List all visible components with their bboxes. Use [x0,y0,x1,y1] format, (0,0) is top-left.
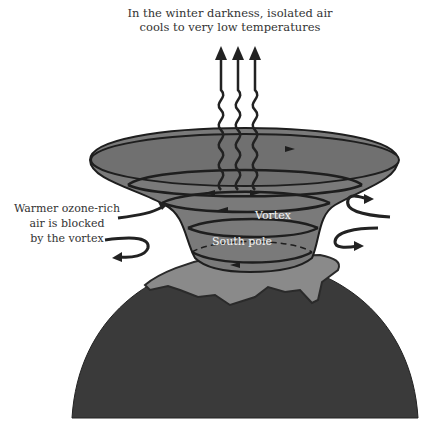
south-pole-label: South pole [212,235,272,249]
top-caption-line-2: cools to very low temperatures [125,20,335,34]
arrow-right-icon [364,194,374,204]
left-caption: Warmer ozone-rich air is blocked by the … [2,201,132,246]
left-caption-line-2: air is blocked [2,216,132,231]
right-blocked-air-arrows [335,196,390,247]
polar-vortex-diagram: In the winter darkness, isolated air coo… [0,0,435,432]
arrow-up-icon [249,46,261,60]
top-caption: In the winter darkness, isolated air coo… [125,6,335,34]
arrow-up-icon [232,46,244,60]
left-caption-line-3: by the vortex [2,231,132,246]
top-caption-line-1: In the winter darkness, isolated air [125,6,335,20]
arrow-up-icon [215,46,227,60]
arrow-right-icon [354,241,364,251]
arrow-left-icon [112,252,122,262]
left-caption-line-1: Warmer ozone-rich [2,201,132,216]
vortex-top-rim [91,134,399,186]
vortex-label: Vortex [255,209,291,223]
